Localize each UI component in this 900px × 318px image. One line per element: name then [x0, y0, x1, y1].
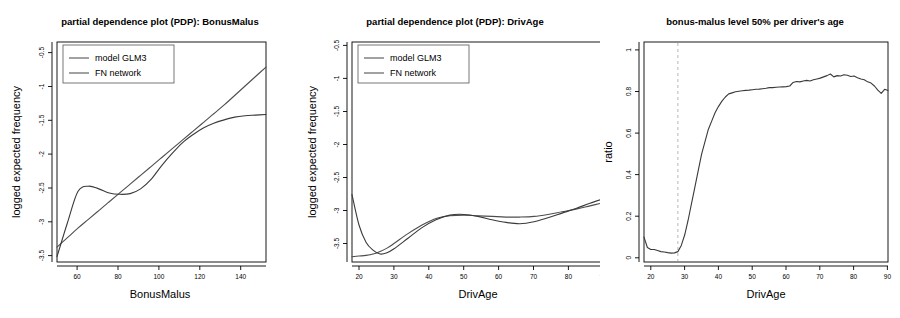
panel-2-ytick-6: -0.5 — [333, 39, 340, 51]
panel-2-title: partial dependence plot (PDP): DrivAge — [366, 16, 543, 27]
panel-3-ytick-3: 0.6 — [625, 128, 632, 137]
panel-2-svg: partial dependence plot (PDP): DrivAge -… — [300, 0, 600, 318]
panel-3-ytick-5: 1 — [625, 48, 632, 52]
panel-2-y-ticks: -3.5 -3 -2.5 -2 -1.5 -1 -0.5 — [333, 39, 347, 249]
panel-2-legend-label-0: model GLM3 — [390, 53, 442, 63]
panel-3-title: bonus-malus level 50% per driver's age — [666, 16, 844, 27]
panel-1-xtick-1: 80 — [114, 273, 122, 280]
panel-1-title: partial dependence plot (PDP): BonusMalu… — [61, 16, 258, 27]
panel-3-series-ratio — [644, 74, 888, 253]
panel-drivage-pdp: partial dependence plot (PDP): DrivAge -… — [300, 0, 600, 318]
panel-1-ytick-0: -3.5 — [38, 250, 45, 262]
panel-3-ytick-4: 0.8 — [625, 87, 632, 96]
panel-1-legend-label-0: model GLM3 — [95, 53, 147, 63]
panel-1-series-model-glm3 — [57, 67, 266, 247]
panel-3-xtick-1: 30 — [681, 273, 689, 280]
panel-3-x-ticks: 20 30 40 50 60 70 80 90 — [647, 266, 891, 280]
panel-1-xtick-3: 120 — [194, 273, 205, 280]
panel-2-ytick-0: -3.5 — [333, 238, 340, 250]
panel-3-xtick-6: 80 — [850, 273, 858, 280]
panel-1-svg: partial dependence plot (PDP): BonusMalu… — [0, 0, 300, 318]
panel-2-ytick-5: -1 — [333, 75, 340, 81]
panel-1-series-fn-network — [57, 114, 266, 256]
panel-2-legend: model GLM3 FN network — [358, 45, 469, 83]
panel-3-ytick-1: 0.2 — [625, 211, 632, 220]
panel-1-y-ticks: -3.5 -3 -2.5 -2 -1.5 -1 -0.5 — [38, 47, 52, 262]
panel-1-legend: model GLM3 FN network — [63, 45, 174, 83]
panel-1-xlabel: BonusMalus — [130, 288, 191, 300]
panel-3-ytick-0: 0 — [625, 256, 632, 260]
pdp-figure: partial dependence plot (PDP): BonusMalu… — [0, 0, 900, 318]
panel-3-xtick-3: 50 — [749, 273, 757, 280]
panel-2-xtick-1: 30 — [390, 273, 398, 280]
panel-3-y-ticks: 0 0.2 0.4 0.6 0.8 1 — [625, 48, 639, 260]
panel-3-xtick-7: 90 — [884, 273, 892, 280]
panel-2-xlabel: DrivAge — [458, 288, 497, 300]
panel-2-series-fn-network — [352, 195, 600, 255]
panel-3-svg: bonus-malus level 50% per driver's age 0… — [600, 0, 900, 318]
panel-3-ylabel: ratio — [602, 141, 614, 162]
panel-3-xlabel: DrivAge — [746, 288, 785, 300]
panel-1-ytick-3: -2 — [38, 151, 45, 157]
panel-3-xtick-5: 70 — [816, 273, 824, 280]
panel-2-ytick-1: -3 — [333, 207, 340, 213]
panel-2-xtick-2: 40 — [425, 273, 433, 280]
panel-1-ytick-6: -0.5 — [38, 47, 45, 59]
panel-3-ytick-2: 0.4 — [625, 170, 632, 179]
panel-1-ytick-1: -3 — [38, 219, 45, 225]
panel-1-ylabel: logged expected frequency — [10, 85, 22, 218]
panel-2-xtick-6: 80 — [565, 273, 573, 280]
panel-3-xtick-0: 20 — [647, 273, 655, 280]
panel-2-x-ticks: 20 30 40 50 60 70 80 90 — [355, 266, 600, 280]
panel-3-xtick-2: 40 — [715, 273, 723, 280]
panel-1-ytick-2: -2.5 — [38, 182, 45, 194]
panel-1-xtick-0: 60 — [73, 273, 81, 280]
panel-2-legend-label-1: FN network — [390, 68, 437, 78]
panel-bonus-malus-ratio: bonus-malus level 50% per driver's age 0… — [600, 0, 900, 318]
panel-2-ytick-3: -2 — [333, 141, 340, 147]
panel-1-legend-label-1: FN network — [95, 68, 142, 78]
panel-3-plot-frame — [644, 42, 888, 262]
panel-2-xtick-3: 50 — [460, 273, 468, 280]
panel-2-ytick-2: -2.5 — [333, 172, 340, 184]
panel-3-xtick-4: 60 — [782, 273, 790, 280]
panel-2-ytick-4: -1.5 — [333, 106, 340, 118]
panel-2-series-model-glm3 — [352, 203, 600, 257]
panel-2-xtick-5: 70 — [530, 273, 538, 280]
panel-1-x-ticks: 60 80 100 120 140 — [73, 266, 246, 280]
panel-2-xtick-0: 20 — [355, 273, 363, 280]
panel-1-ytick-4: -1.5 — [38, 114, 45, 126]
panel-bonusmalus-pdp: partial dependence plot (PDP): BonusMalu… — [0, 0, 300, 318]
panel-2-ylabel: logged expected frequency — [306, 85, 318, 218]
panel-1-xtick-4: 140 — [235, 273, 246, 280]
panel-2-xtick-4: 60 — [495, 273, 503, 280]
panel-1-ytick-5: -1 — [38, 83, 45, 89]
panel-1-xtick-2: 100 — [153, 273, 164, 280]
